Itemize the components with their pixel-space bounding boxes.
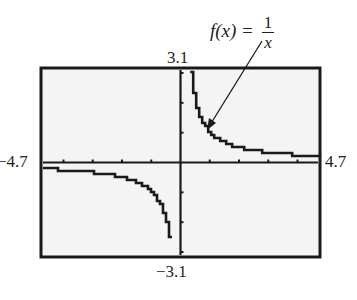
calculator-graph xyxy=(0,0,357,300)
